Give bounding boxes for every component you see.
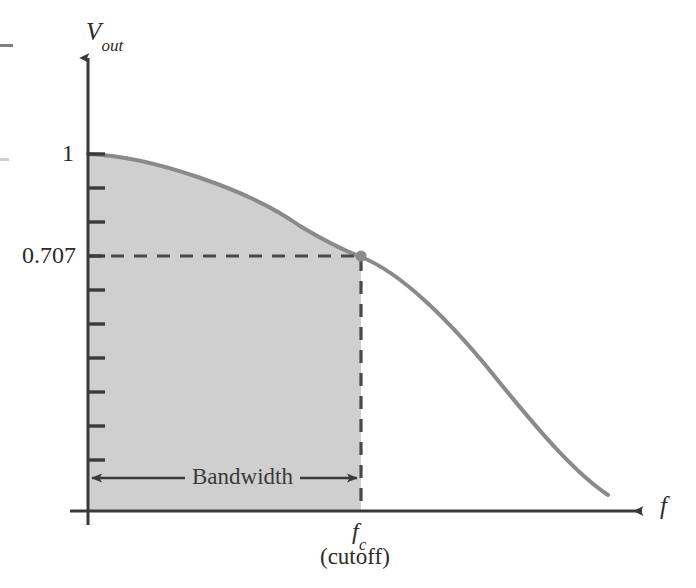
bandwidth-label: Bandwidth <box>185 464 300 490</box>
page-edge-artifact-top <box>0 44 13 47</box>
x-axis-label: f <box>660 492 667 520</box>
cutoff-point-marker <box>355 250 366 261</box>
filter-response-chart: Vout 1 0.707 f fc (cutoff) Bandwidth <box>0 0 696 588</box>
y-tick-label-0707: 0.707 <box>22 242 76 269</box>
passband-fill <box>88 154 361 511</box>
page-edge-artifact-mid <box>0 158 9 161</box>
y-axis-label: Vout <box>86 18 123 51</box>
y-tick-label-one: 1 <box>62 140 74 167</box>
cutoff-note-label: (cutoff) <box>320 544 390 570</box>
chart-canvas <box>0 0 696 588</box>
